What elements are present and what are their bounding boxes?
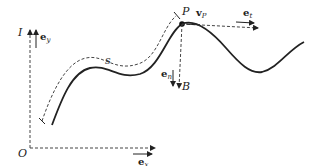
et-label: et <box>243 7 252 20</box>
et-arrow-icon <box>236 22 254 23</box>
frenet-frame-diagram: I ey O ex s P vP et en B <box>0 0 326 166</box>
ey-label: ey <box>40 31 51 44</box>
arc-end-tick <box>174 12 180 19</box>
arc-length-label: s <box>105 54 111 67</box>
trajectory-curve <box>52 23 304 125</box>
point-p-label: P <box>181 5 190 18</box>
binormal-frame-label: B <box>181 80 190 93</box>
normal-line <box>179 24 182 88</box>
arc-start-tick <box>39 118 45 124</box>
ex-label: ex <box>138 156 148 166</box>
vp-label: vP <box>195 7 207 20</box>
arc-length-path <box>42 16 176 121</box>
origin-label: O <box>18 147 27 160</box>
en-label: en <box>161 68 172 81</box>
inertial-frame-label: I <box>17 26 23 39</box>
inertial-axes <box>30 30 155 148</box>
